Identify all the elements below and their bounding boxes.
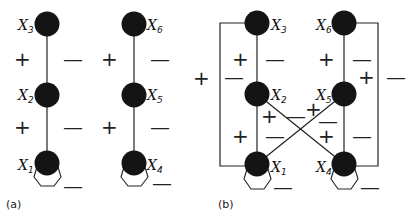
sign-plus: + xyxy=(14,47,31,71)
label-x6: X6 xyxy=(315,17,332,35)
node-x5 xyxy=(332,82,357,107)
sign-minus: — xyxy=(150,115,170,139)
sign-minus: — xyxy=(63,174,83,198)
panel-a: X3 X2 X1 X6 X5 X4 + — + — — + — + — — (a… xyxy=(6,12,172,212)
label-x2: X2 xyxy=(17,87,34,105)
node-x3 xyxy=(35,12,60,37)
label-x6: X6 xyxy=(146,17,163,35)
sign-plus: + xyxy=(232,47,249,71)
sign-minus: — xyxy=(265,47,285,71)
sign-minus: — xyxy=(63,47,83,71)
node-x3 xyxy=(245,11,270,36)
feedback-diagram: X3 X2 X1 X6 X5 X4 + — + — — + — + — — (a… xyxy=(0,0,413,217)
sign-plus: + xyxy=(318,47,335,71)
sign-plus: + xyxy=(101,47,118,71)
node-x5 xyxy=(122,83,147,108)
sign-minus: — xyxy=(63,115,83,139)
sign-minus: — xyxy=(386,65,406,89)
node-x4 xyxy=(332,152,357,177)
label-x2: X2 xyxy=(270,87,287,105)
sign-minus: — xyxy=(360,175,380,199)
label-x5: X5 xyxy=(146,87,163,105)
label-x3: X3 xyxy=(270,17,287,35)
panel-b: X3 X2 X1 X6 X5 X4 + — + — + — + — + — + … xyxy=(193,11,406,212)
node-x4 xyxy=(122,151,147,176)
sign-plus: + xyxy=(14,115,31,139)
sign-plus: + xyxy=(232,124,249,148)
label-x3: X3 xyxy=(17,17,34,35)
sign-minus: — xyxy=(273,175,293,199)
label-x1: X1 xyxy=(17,157,34,175)
sign-plus: + xyxy=(318,124,335,148)
sign-plus: + xyxy=(261,104,278,128)
node-x2 xyxy=(35,83,60,108)
sign-minus: — xyxy=(352,124,372,148)
node-x6 xyxy=(122,12,147,37)
node-x1 xyxy=(35,151,60,176)
sign-plus: + xyxy=(358,65,375,89)
label-x4: X4 xyxy=(315,159,332,177)
sign-plus: + xyxy=(193,66,210,90)
node-x1 xyxy=(245,152,270,177)
node-x6 xyxy=(332,11,357,36)
node-x2 xyxy=(245,82,270,107)
caption-b: (b) xyxy=(218,198,234,211)
sign-plus: + xyxy=(101,115,118,139)
sign-minus: — xyxy=(150,47,170,71)
sign-minus: — xyxy=(152,171,172,195)
caption-a: (a) xyxy=(6,198,21,211)
sign-minus: — xyxy=(286,104,306,128)
